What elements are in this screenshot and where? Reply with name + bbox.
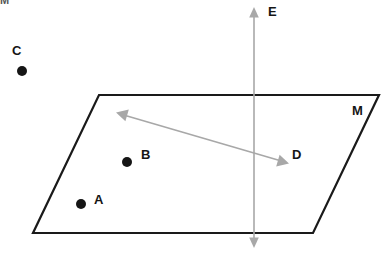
line-e-arrowhead-down (249, 238, 259, 249)
point-c-dot (17, 66, 27, 76)
line-e-group (249, 7, 259, 248)
line-e-arrowhead-up (249, 7, 259, 18)
point-b-label: B (141, 147, 150, 162)
plane-m-label: M (352, 103, 363, 118)
point-a-label: A (94, 192, 104, 207)
line-e-label: E (268, 4, 277, 19)
line-d-label: D (292, 147, 301, 162)
geometry-canvas: M A B C D E M (0, 0, 386, 253)
line-d-arrowhead-lower-right (276, 155, 289, 167)
top-left-artifact-text: M (0, 0, 9, 6)
line-d-arrowhead-upper-left (116, 110, 129, 122)
point-a-dot (76, 199, 86, 209)
point-b-dot (122, 157, 132, 167)
point-c-label: C (12, 43, 22, 58)
geometry-diagram: M A B C D E M (0, 0, 386, 253)
plane-m-outline (33, 95, 379, 233)
